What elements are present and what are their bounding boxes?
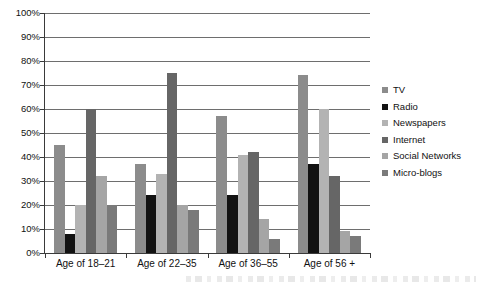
y-axis-tick xyxy=(40,181,45,182)
bar[interactable] xyxy=(167,73,178,253)
bar[interactable] xyxy=(248,152,259,253)
legend-item[interactable]: Internet xyxy=(382,132,482,149)
legend-swatch-icon xyxy=(382,153,388,159)
y-axis-labels: 100%90%80%70%60%50%40%30%20%10%0% xyxy=(0,0,40,284)
bar[interactable] xyxy=(177,205,188,253)
bar[interactable] xyxy=(86,109,97,253)
bar[interactable] xyxy=(269,239,280,253)
bar[interactable] xyxy=(135,164,146,253)
bar[interactable] xyxy=(188,210,199,253)
x-axis-tick xyxy=(45,253,46,258)
x-axis-category-label: Age of 56 + xyxy=(289,258,370,270)
y-axis-tick xyxy=(40,61,45,62)
bar[interactable] xyxy=(259,219,270,253)
legend-item[interactable]: TV xyxy=(382,82,482,99)
y-axis-tick-label: 50% xyxy=(2,128,40,138)
bar[interactable] xyxy=(75,205,86,253)
chart-legend: TVRadioNewspapersInternetSocial Networks… xyxy=(382,82,482,181)
x-axis-category-label: Age of 22–35 xyxy=(126,258,207,270)
x-axis-category-label: Age of 36–55 xyxy=(208,258,289,270)
y-axis-tick xyxy=(40,205,45,206)
bar[interactable] xyxy=(65,234,76,253)
legend-item-label: Micro-blogs xyxy=(393,168,442,178)
bar[interactable] xyxy=(146,195,157,253)
y-axis-tick-label: 80% xyxy=(2,56,40,66)
y-axis-tick-label: 100% xyxy=(2,8,40,18)
bar[interactable] xyxy=(156,174,167,253)
y-axis-tick-label: 40% xyxy=(2,152,40,162)
bar-group xyxy=(45,13,126,253)
y-axis-tick xyxy=(40,85,45,86)
bar[interactable] xyxy=(308,164,319,253)
y-axis-tick xyxy=(40,133,45,134)
y-axis-tick xyxy=(40,109,45,110)
y-axis-tick-label: 70% xyxy=(2,80,40,90)
bar[interactable] xyxy=(319,109,330,253)
legend-swatch-icon xyxy=(382,104,388,110)
scan-artifact xyxy=(186,276,476,282)
y-axis-tick-label: 60% xyxy=(2,104,40,114)
y-axis-tick-label: 20% xyxy=(2,200,40,210)
legend-item-label: TV xyxy=(393,85,405,95)
legend-swatch-icon xyxy=(382,170,388,176)
y-axis-tick-label: 10% xyxy=(2,224,40,234)
bar-group xyxy=(208,13,289,253)
legend-swatch-icon xyxy=(382,137,388,143)
legend-item[interactable]: Social Networks xyxy=(382,148,482,165)
y-axis-tick-label: 90% xyxy=(2,32,40,42)
bar[interactable] xyxy=(298,75,309,253)
legend-swatch-icon xyxy=(382,87,388,93)
y-axis-tick-label: 30% xyxy=(2,176,40,186)
y-axis-tick xyxy=(40,37,45,38)
legend-item-label: Social Networks xyxy=(393,151,461,161)
bar[interactable] xyxy=(329,176,340,253)
bar[interactable] xyxy=(238,155,249,253)
plot-area xyxy=(45,13,370,253)
bar[interactable] xyxy=(216,116,227,253)
bar-groups xyxy=(45,13,370,253)
x-axis-tick xyxy=(370,253,371,258)
bar[interactable] xyxy=(54,145,65,253)
bar[interactable] xyxy=(350,236,361,253)
legend-item[interactable]: Newspapers xyxy=(382,115,482,132)
legend-item-label: Internet xyxy=(393,135,425,145)
y-axis-tick xyxy=(40,13,45,14)
legend-item[interactable]: Radio xyxy=(382,99,482,116)
legend-swatch-icon xyxy=(382,120,388,126)
bar[interactable] xyxy=(96,176,107,253)
x-axis-category-label: Age of 18–21 xyxy=(45,258,126,270)
x-axis-tick xyxy=(126,253,127,258)
legend-item[interactable]: Micro-blogs xyxy=(382,165,482,182)
bar[interactable] xyxy=(227,195,238,253)
y-axis-tick xyxy=(40,229,45,230)
bar-group xyxy=(126,13,207,253)
x-axis-tick xyxy=(208,253,209,258)
y-axis-tick-label: 0% xyxy=(2,248,40,258)
bar-chart: 100%90%80%70%60%50%40%30%20%10%0% Age of… xyxy=(0,0,483,284)
bar-group xyxy=(289,13,370,253)
legend-item-label: Newspapers xyxy=(393,118,446,128)
x-axis-tick xyxy=(289,253,290,258)
bar[interactable] xyxy=(340,231,351,253)
x-axis-labels: Age of 18–21Age of 22–35Age of 36–55Age … xyxy=(45,258,370,270)
y-axis-tick xyxy=(40,157,45,158)
legend-item-label: Radio xyxy=(393,102,418,112)
bar[interactable] xyxy=(107,205,118,253)
